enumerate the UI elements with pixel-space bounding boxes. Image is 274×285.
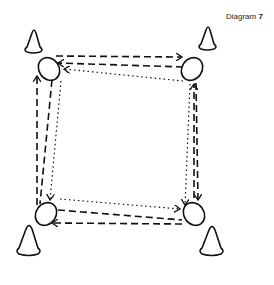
cone-top-right bbox=[199, 27, 216, 50]
player-top-right bbox=[177, 53, 207, 84]
cone-bottom-right bbox=[200, 227, 223, 256]
player-top-left bbox=[34, 53, 64, 84]
bottom-lines bbox=[52, 199, 182, 224]
cone-top-left bbox=[25, 30, 42, 53]
player-bottom-left bbox=[31, 198, 61, 229]
left-lines bbox=[37, 76, 61, 205]
cone-bottom-left bbox=[17, 226, 40, 256]
right-lines bbox=[185, 83, 198, 205]
drill-diagram bbox=[0, 0, 274, 285]
player-bottom-right bbox=[179, 198, 209, 229]
top-lines bbox=[56, 56, 183, 81]
